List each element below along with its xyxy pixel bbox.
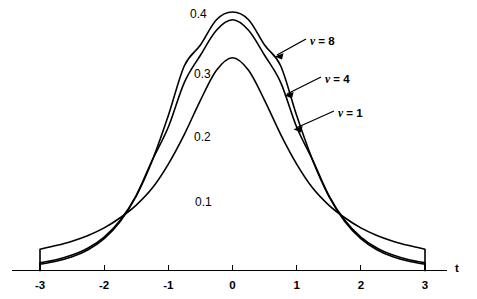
series-annotation-label: ν = 4 xyxy=(325,74,350,86)
t-distribution-chart: -3-2-10123 0.40.30.20.1 ν = 8ν = 4ν = 1 … xyxy=(0,0,477,299)
leader-lines xyxy=(275,39,335,132)
series-annotation-label: ν = 1 xyxy=(338,108,363,120)
plot-area xyxy=(0,0,477,299)
leader-line-nu4 xyxy=(287,77,321,94)
density-curves xyxy=(40,12,425,271)
x-tick-label: 3 xyxy=(422,280,428,292)
leader-line-nu1 xyxy=(296,111,334,128)
density-value-label: 0.2 xyxy=(194,131,211,143)
density-value-label: 0.1 xyxy=(195,196,212,208)
series-annotation-label: ν = 8 xyxy=(310,36,335,48)
density-value-label: 0.3 xyxy=(194,68,211,80)
leader-line-nu8 xyxy=(277,39,306,55)
x-tick-label: -3 xyxy=(35,280,45,292)
x-tick-label: 1 xyxy=(293,280,299,292)
x-axis-ticks xyxy=(40,265,425,271)
x-tick-label: 2 xyxy=(358,280,364,292)
nu-value-text: = 1 xyxy=(343,107,363,119)
axis-group xyxy=(12,265,447,271)
x-tick-label: 0 xyxy=(229,280,235,292)
density-curve-nu-1 xyxy=(40,58,425,271)
nu-value-text: = 4 xyxy=(330,73,350,85)
x-tick-label: -1 xyxy=(163,280,173,292)
density-value-label: 0.4 xyxy=(190,8,207,20)
x-tick-label: -2 xyxy=(99,280,109,292)
nu-value-text: = 8 xyxy=(315,35,335,47)
x-axis-title: t xyxy=(455,263,459,275)
